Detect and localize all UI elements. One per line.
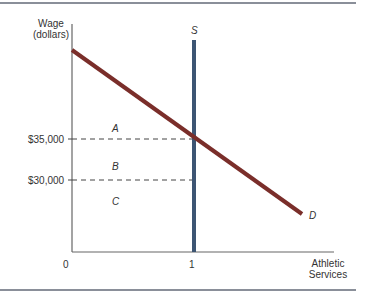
y-tick-label-35000: $35,000 — [28, 134, 64, 145]
demand-label: D — [309, 210, 316, 221]
origin-label: 0 — [63, 259, 69, 270]
area-b-label: B — [112, 161, 119, 172]
x-axis-label-line1: Athletic — [306, 258, 350, 269]
chart-frame: Wage (dollars) $35,000 $30,000 0 1 Athle… — [0, 0, 370, 299]
chart-plot — [0, 0, 370, 299]
demand-curve — [72, 50, 302, 214]
y-axis-label: Wage (dollars) — [30, 18, 72, 40]
x-tick-label-1: 1 — [189, 259, 195, 270]
x-axis-label-line2: Services — [306, 269, 350, 280]
x-axis-label: Athletic Services — [306, 258, 350, 280]
area-c-label: C — [112, 196, 119, 207]
y-tick-label-30000: $30,000 — [28, 175, 64, 186]
area-a-label: A — [112, 123, 119, 134]
supply-label: S — [191, 25, 198, 36]
y-axis-label-line2: (dollars) — [30, 29, 72, 40]
y-axis-label-line1: Wage — [30, 18, 72, 29]
